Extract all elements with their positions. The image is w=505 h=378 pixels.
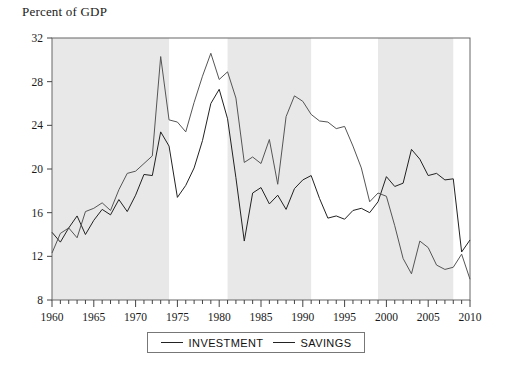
y-tick-label: 12 (32, 250, 44, 262)
x-tick-label: 2010 (459, 311, 482, 323)
x-tick-label: 1990 (291, 311, 314, 323)
x-tick-label: 1965 (82, 311, 105, 323)
y-tick-label: 16 (32, 207, 44, 219)
y-tick-label: 8 (37, 294, 43, 306)
recession-band (228, 38, 312, 300)
x-tick-label: 2005 (417, 311, 440, 323)
x-tick-label: 1970 (124, 311, 147, 323)
legend-item-investment: INVESTMENT (161, 337, 264, 349)
x-tick-label: 1960 (41, 311, 64, 323)
recession-band (52, 38, 169, 300)
legend-item-label: SAVINGS (301, 337, 352, 349)
x-tick-label: 1975 (166, 311, 189, 323)
y-tick-label: 32 (32, 32, 44, 44)
legend-item-savings: SAVINGS (273, 337, 352, 349)
recession-band (378, 38, 453, 300)
x-tick-label: 2000 (375, 311, 398, 323)
x-tick-label: 1985 (250, 311, 273, 323)
line-chart-plot: 8121620242832 19601965197019751980198519… (0, 0, 505, 378)
x-tick-label: 1995 (333, 311, 356, 323)
y-tick-label: 24 (32, 119, 44, 131)
legend-line-icon (273, 342, 295, 343)
y-axis-ticks: 8121620242832 (32, 32, 53, 306)
x-axis-ticks: 1960196519701975198019851990199520002005… (41, 300, 482, 323)
chart-legend: INVESTMENT SAVINGS (147, 332, 365, 353)
legend-line-icon (161, 342, 183, 343)
shaded-recession-bands (52, 38, 453, 300)
y-tick-label: 20 (32, 163, 44, 175)
x-tick-label: 1980 (208, 311, 231, 323)
y-tick-label: 28 (32, 76, 44, 88)
legend-item-label: INVESTMENT (189, 337, 264, 349)
chart-container: Percent of GDP 8121620242832 19601965197… (0, 0, 505, 378)
